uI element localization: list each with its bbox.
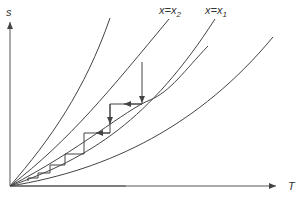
diagram: s T x=x2 x=x1 <box>0 0 303 199</box>
diagram-canvas <box>0 0 303 199</box>
curve-label-x2: x=x2 <box>159 4 181 19</box>
curve-1 <box>10 18 110 186</box>
curve-3 <box>10 46 208 186</box>
curve-label-x1: x=x1 <box>205 4 227 19</box>
x-axis-label: T <box>288 180 295 192</box>
staircase <box>28 62 142 181</box>
y-axis-label: s <box>6 6 12 18</box>
